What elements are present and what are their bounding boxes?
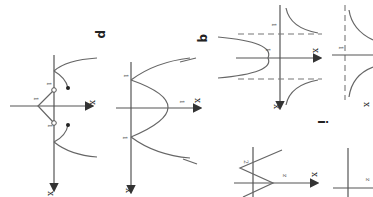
figure-5: 2 z x xyxy=(234,147,320,197)
curve-branch xyxy=(54,71,68,88)
curve-branch-long xyxy=(54,142,97,157)
figure-6: z xyxy=(333,148,373,197)
tick-label: z xyxy=(365,178,372,181)
tick-label: 1 xyxy=(179,100,186,104)
tick-label: 1 xyxy=(338,46,345,50)
tick-label: 1 xyxy=(265,48,272,52)
curve-branch xyxy=(131,137,190,158)
tick-label: 1 xyxy=(47,124,54,128)
tick-label: 1 xyxy=(271,23,278,27)
figure-label-q: q xyxy=(197,34,211,43)
axis-label-x: x xyxy=(124,188,134,193)
tick-label: 1 xyxy=(33,97,40,101)
axis-label-x: x xyxy=(46,191,56,196)
hyperbola-branch xyxy=(286,8,318,33)
tick-label: z xyxy=(282,174,289,177)
axis-label-x: x xyxy=(362,102,372,107)
axis-label-x: x xyxy=(193,98,203,103)
angle-label: 2 xyxy=(243,160,250,164)
tick-label: 1 xyxy=(123,74,130,78)
axis-label-x: x xyxy=(310,172,320,177)
hyperbola-branch xyxy=(286,80,318,105)
curve-branch-long xyxy=(54,58,97,71)
figure-label-i: i xyxy=(315,120,329,124)
figure-label-p: p xyxy=(95,30,109,39)
wedge-rays xyxy=(240,150,282,197)
figure-1: 1 1 1 x x xyxy=(10,55,98,196)
tick-label: 1 xyxy=(46,82,53,86)
axis-label-x: x xyxy=(272,104,282,109)
figure-4: 1 x xyxy=(332,5,373,107)
curve-branch xyxy=(54,125,68,142)
figure-3: 1 1 x x xyxy=(218,5,322,109)
tick-label: 1 xyxy=(122,136,129,140)
rotated-figure-page: 1 1 1 x x p 1 1 1 x x q 1 1 x x xyxy=(0,0,373,197)
open-circle-marker xyxy=(52,88,57,93)
axis-label-x: x xyxy=(88,100,98,105)
axis-label-x: x xyxy=(311,48,321,53)
curve-branch xyxy=(349,10,373,40)
figure-2: 1 1 1 x x xyxy=(116,58,203,193)
curve-branch xyxy=(349,67,373,97)
stray-line xyxy=(183,159,197,164)
filled-dot-marker xyxy=(66,123,70,127)
filled-dot-marker xyxy=(66,86,70,90)
